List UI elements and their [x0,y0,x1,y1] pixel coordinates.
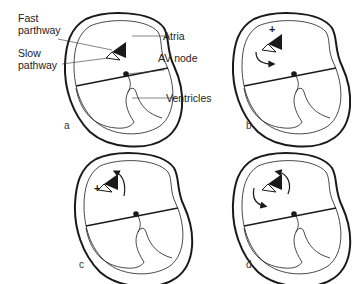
panel-letter-a: a [64,120,70,131]
label-slow-line1: Slow [18,47,57,59]
heart-diagram: + [254,14,355,144]
label-slow-line2: pathway [18,59,57,71]
pathway-wedge-icon [262,34,282,52]
label-ventricles: Ventricles [166,92,212,104]
heart-diagram: + [76,154,196,284]
arrow-icon [253,188,264,206]
heart-diagram [254,154,355,284]
panel-letter-c: c [79,259,84,270]
plus-symbol: + [94,182,100,194]
label-av-node: AV node [158,52,198,64]
pathway-wedge-icon [98,174,118,192]
plus-symbol: + [269,23,275,35]
label-fast-line2: parthway [18,24,61,36]
label-atria: Atria [163,30,185,42]
panel-letter-d: d [246,259,252,270]
panel-letter-b: b [246,120,252,131]
panel-b: + [254,14,355,144]
label-fast-pathway: Fast parthway [18,12,61,36]
pathway-wedge-icon [262,174,282,192]
panel-c: + [76,154,196,284]
label-fast-line1: Fast [18,12,61,24]
label-slow-pathway: Slow pathway [18,47,57,71]
panel-d [254,154,355,284]
pathway-wedge-icon [106,42,126,60]
arrow-icon [256,52,272,64]
